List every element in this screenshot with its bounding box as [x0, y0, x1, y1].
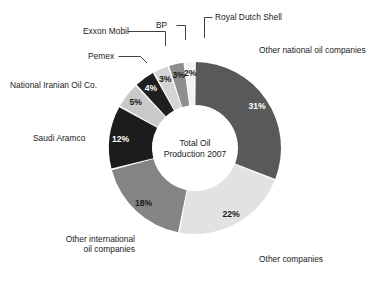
label-pemex: Pemex: [88, 51, 114, 61]
leader-line-exxon-mobil: [128, 32, 166, 47]
center-text-line1: Total Oil: [179, 138, 210, 148]
label-exxon-mobil: Exxon Mobil: [83, 26, 129, 36]
label-other-international-oil-companies: Other international oil companies: [20, 234, 135, 254]
donut-slice[interactable]: [180, 164, 275, 234]
center-text: Total Oil Production 2007: [164, 138, 227, 159]
slice-percentage-label: 22%: [222, 209, 240, 219]
slice-percentage-label: 5%: [130, 97, 143, 107]
slice-percentage-label: 3%: [159, 74, 172, 84]
donut-slice[interactable]: [112, 159, 187, 232]
slice-percentage-label: 31%: [248, 101, 266, 111]
slice-percentage-label: 18%: [135, 198, 153, 208]
label-royal-dutch-shell: Royal Dutch Shell: [215, 12, 282, 22]
center-text-line2: Production 2007: [164, 149, 227, 159]
leader-line-pemex: [119, 57, 148, 64]
donut-slice[interactable]: [195, 62, 281, 179]
leader-line-royal-dutch-shell: [205, 18, 213, 39]
donut-slices: [109, 62, 281, 234]
slice-percentage-label: 2%: [184, 68, 197, 78]
slice-percentage-label: 4%: [145, 83, 158, 93]
slice-percentage-label: 12%: [112, 134, 130, 144]
label-other-national-oil-companies: Other national oil companies: [259, 45, 366, 55]
label-other-companies: Other companies: [259, 254, 323, 264]
oil-production-donut-chart: Total Oil Production 2007 31%22%18%12%5%…: [0, 0, 389, 281]
leader-line-bp: [177, 26, 186, 41]
label-saudi-aramco: Saudi Aramco: [33, 133, 85, 143]
label-bp: BP: [156, 20, 167, 30]
label-national-iranian-oil-co: National Iranian Oil Co.: [10, 80, 97, 90]
